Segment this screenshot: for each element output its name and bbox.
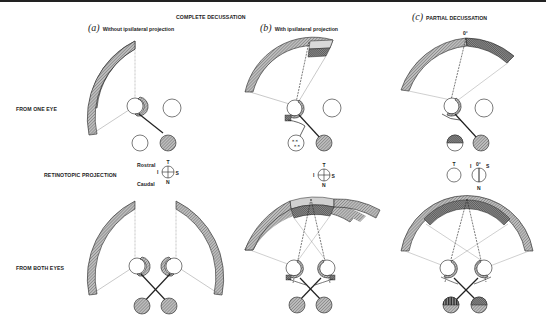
panel-b-one-eye: × × × × <box>245 37 341 151</box>
svg-text:T: T <box>323 162 326 168</box>
svg-text:T: T <box>453 161 456 167</box>
compass-b: T N I S <box>313 162 336 188</box>
svg-text:× ×: × × <box>294 143 300 148</box>
compass-c: T 0° I S N <box>447 161 490 191</box>
panel-b-both-eyes <box>244 197 390 313</box>
panel-c-one-eye: 0° <box>401 30 514 151</box>
panel-a-one-eye <box>86 41 181 151</box>
svg-text:0°: 0° <box>463 30 468 36</box>
svg-text:0°: 0° <box>476 161 481 167</box>
svg-text:I: I <box>157 169 159 175</box>
panel-c-both-eyes <box>401 196 533 313</box>
panel-a-both-eyes <box>87 201 223 314</box>
svg-text:S: S <box>332 173 336 179</box>
svg-text:S: S <box>176 170 180 176</box>
svg-text:S: S <box>486 163 490 169</box>
svg-text:N: N <box>322 182 326 188</box>
svg-text:I: I <box>470 163 472 169</box>
svg-text:I: I <box>313 172 315 178</box>
decussation-diagram: T N I S × × × × <box>0 0 546 323</box>
svg-text:N: N <box>166 179 170 185</box>
svg-text:T: T <box>167 159 170 165</box>
svg-text:N: N <box>477 185 481 191</box>
compass-a: T N I S <box>157 159 180 185</box>
